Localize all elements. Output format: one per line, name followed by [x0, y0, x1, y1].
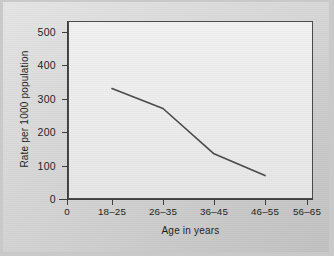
line-series-rate-per-1000: [112, 89, 265, 176]
y-axis-title: Rate per 1000 population: [20, 39, 30, 179]
x-axis-title: Age in years: [68, 226, 313, 236]
figure-container: 0 100 200 300 400 500 0 18–25 26–35 36–4…: [0, 0, 334, 256]
data-series-layer: [0, 0, 334, 256]
